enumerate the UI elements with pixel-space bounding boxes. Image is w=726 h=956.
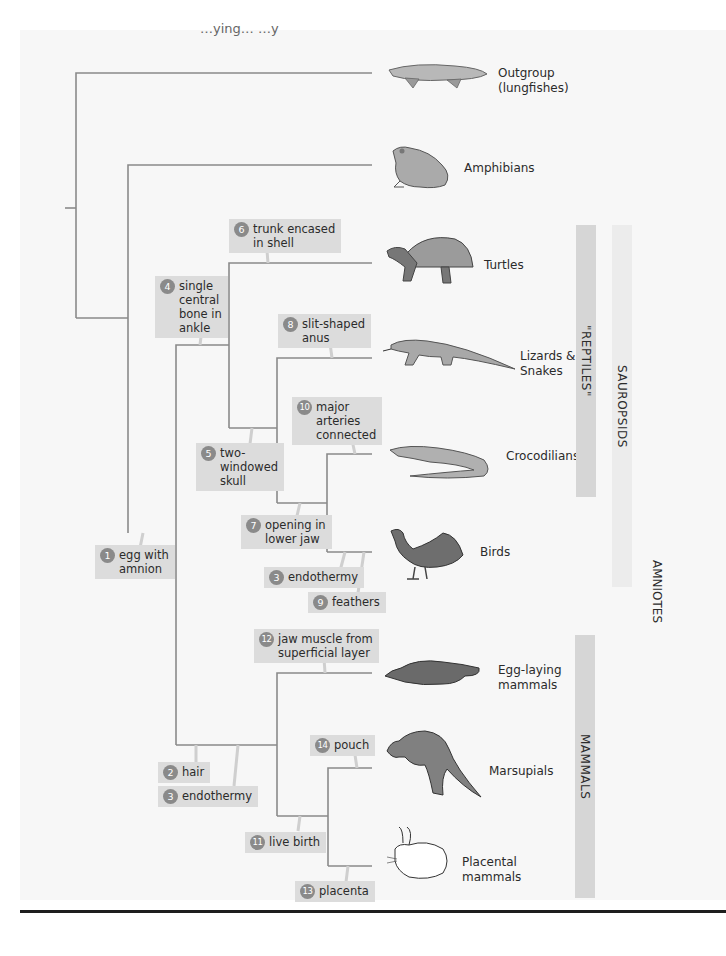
pointer-t11 bbox=[298, 816, 300, 831]
taxon-label-line: Snakes bbox=[520, 364, 575, 379]
trait-text: trunk encased bbox=[253, 222, 335, 236]
lizard-icon bbox=[383, 335, 518, 373]
pointer-t5 bbox=[250, 428, 252, 444]
group-bar-mammals: MAMMALS bbox=[575, 635, 595, 898]
trait-text: egg with bbox=[119, 548, 169, 562]
trait-text: windowed bbox=[220, 460, 278, 474]
trait-trunk-encased-in-shell: 6 trunk encased in shell bbox=[229, 219, 341, 253]
trait-major-arteries-connected: 10 major arteries connected bbox=[292, 397, 382, 445]
taxon-label-marsupials: Marsupials bbox=[489, 764, 553, 779]
trait-hair: 2 hair bbox=[158, 762, 210, 783]
trait-text: placenta bbox=[319, 884, 369, 898]
taxon-label-line: mammals bbox=[498, 678, 562, 693]
trait-jaw-muscle-from-superficial-layer: 12 jaw muscle from superficial layer bbox=[254, 629, 379, 663]
group-label-reptiles: "REPTILES" bbox=[579, 325, 593, 397]
crocodile-icon bbox=[388, 440, 498, 482]
trait-badge: 4 bbox=[160, 279, 175, 294]
lungfish-icon bbox=[385, 60, 490, 92]
trait-text: skull bbox=[220, 474, 246, 488]
trait-badge: 3 bbox=[163, 789, 178, 804]
pointer-t14 bbox=[355, 755, 357, 768]
trait-text: feathers bbox=[332, 595, 380, 609]
trait-badge: 8 bbox=[283, 317, 298, 332]
trait-text: jaw muscle from bbox=[278, 632, 373, 646]
taxon-label-lizards-snakes: Lizards & Snakes bbox=[520, 349, 575, 379]
trait-badge: 13 bbox=[300, 884, 315, 899]
trait-badge: 3 bbox=[269, 570, 284, 585]
taxon-label-line: mammals bbox=[462, 870, 521, 885]
group-label-sauropsids: SAUROPSIDS bbox=[615, 365, 629, 448]
trait-text: lower jaw bbox=[265, 532, 320, 546]
trait-text: ankle bbox=[179, 321, 210, 335]
taxon-label-line: Lizards & bbox=[520, 349, 575, 364]
branch-crocodilians bbox=[327, 454, 372, 552]
taxon-label-line: Outgroup bbox=[498, 66, 569, 81]
branch-marsupials bbox=[328, 768, 372, 866]
pointer-t13 bbox=[346, 866, 348, 882]
branch-amniote-node bbox=[176, 345, 229, 745]
trait-endothermy-birds: 3 endothermy bbox=[264, 567, 364, 588]
trait-text: endothermy bbox=[182, 789, 252, 803]
trait-live-birth: 11 live birth bbox=[245, 832, 326, 853]
trait-text: amnion bbox=[119, 562, 162, 576]
trait-text: slit-shaped bbox=[302, 317, 365, 331]
group-label-amniotes-wrapper: AMNIOTES bbox=[650, 560, 664, 627]
turtle-icon bbox=[385, 233, 475, 285]
trait-slit-shaped-anus: 8 slit-shaped anus bbox=[278, 314, 371, 348]
taxon-label-placental-mammals: Placental mammals bbox=[462, 855, 521, 885]
trait-badge: 14 bbox=[315, 738, 330, 753]
group-label-amniotes: AMNIOTES bbox=[650, 560, 664, 623]
trait-badge: 12 bbox=[259, 632, 274, 647]
trait-egg-with-amnion: 1 egg withamnion bbox=[95, 545, 175, 579]
trait-badge: 7 bbox=[246, 518, 261, 533]
trait-pouch: 14 pouch bbox=[310, 735, 375, 756]
trait-endothermy-mammals: 3 endothermy bbox=[158, 786, 258, 807]
trait-badge: 11 bbox=[250, 835, 265, 850]
trait-feathers: 9 feathers bbox=[308, 592, 386, 613]
trait-text: live birth bbox=[269, 835, 320, 849]
taxon-label-crocodilians: Crocodilians bbox=[506, 449, 579, 464]
trait-text: pouch bbox=[334, 738, 369, 752]
trait-opening-in-lower-jaw: 7 opening in lower jaw bbox=[241, 515, 332, 549]
platypus-icon bbox=[383, 654, 483, 690]
trait-text: superficial layer bbox=[278, 646, 370, 660]
trait-text: major bbox=[316, 400, 349, 414]
trait-placenta: 13 placenta bbox=[295, 881, 375, 902]
trait-text: arteries bbox=[316, 414, 360, 428]
taxon-label-lungfishes: Outgroup (lungfishes) bbox=[498, 66, 569, 96]
rooster-icon bbox=[385, 527, 465, 583]
trait-text: hair bbox=[182, 765, 204, 779]
group-label-mammals: MAMMALS bbox=[578, 734, 592, 799]
trait-badge: 5 bbox=[201, 446, 216, 461]
taxon-label-line: Birds bbox=[480, 545, 510, 560]
taxon-label-line: Egg-laying bbox=[498, 663, 562, 678]
bottom-rule bbox=[20, 910, 726, 913]
frog-icon bbox=[390, 143, 455, 191]
trait-badge: 10 bbox=[297, 400, 312, 415]
trait-text: anus bbox=[302, 331, 330, 345]
trait-text: central bbox=[179, 293, 219, 307]
trait-badge: 9 bbox=[313, 595, 328, 610]
trait-two-windowed-skull: 5 two- windowed skull bbox=[196, 443, 284, 491]
taxon-label-line: Turtles bbox=[484, 258, 524, 273]
taxon-label-line: Placental bbox=[462, 855, 521, 870]
trait-text: two- bbox=[220, 446, 245, 460]
taxon-label-line: Marsupials bbox=[489, 764, 553, 779]
trait-single-central-bone-in-ankle: 4 single central bone in ankle bbox=[155, 276, 228, 338]
group-bar-sauropsids: SAUROPSIDS bbox=[612, 225, 632, 587]
group-bar-reptiles: "REPTILES" bbox=[576, 225, 596, 497]
taxon-label-line: Amphibians bbox=[464, 161, 535, 176]
rabbit-icon bbox=[385, 825, 455, 885]
trait-badge: 1 bbox=[100, 548, 115, 563]
taxon-label-egg-laying-mammals: Egg-laying mammals bbox=[498, 663, 562, 693]
taxon-label-turtles: Turtles bbox=[484, 258, 524, 273]
taxon-label-line: Crocodilians bbox=[506, 449, 579, 464]
trait-text: connected bbox=[316, 428, 376, 442]
trait-text: endothermy bbox=[288, 570, 358, 584]
pointer-t3a bbox=[234, 745, 238, 786]
trait-badge: 2 bbox=[163, 765, 178, 780]
kangaroo-icon bbox=[383, 727, 483, 803]
trait-text: bone in bbox=[179, 307, 222, 321]
trait-text: single bbox=[179, 279, 213, 293]
taxon-label-birds: Birds bbox=[480, 545, 510, 560]
